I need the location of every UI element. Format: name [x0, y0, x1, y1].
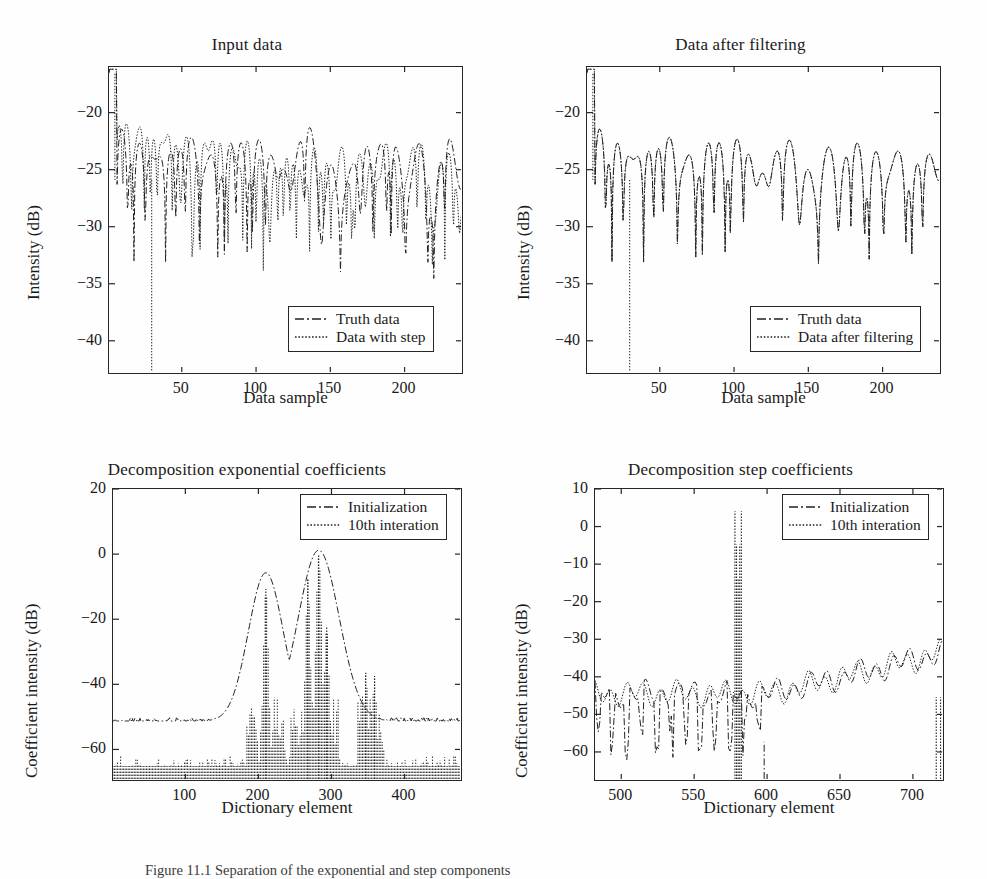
x-tick-label: 100	[243, 379, 267, 397]
x-tick-label: 150	[795, 379, 819, 397]
y-tick-label: −25	[56, 160, 102, 178]
legend-item: Data after filtering	[757, 328, 913, 346]
x-tick-label: 400	[392, 786, 416, 804]
y-tick-label: −20	[534, 103, 580, 121]
legend-label: Data with step	[336, 328, 426, 346]
y-axis-label: Intensity (dB)	[514, 205, 534, 300]
panel-title: Decomposition exponential coefficients	[0, 460, 494, 480]
x-tick-label: 650	[827, 786, 851, 804]
panel-title: Input data	[0, 35, 494, 55]
y-tick-label: 0	[60, 544, 106, 562]
y-axis-label: Coefficient intensity (dB)	[512, 604, 532, 778]
y-tick-label: −35	[56, 274, 102, 292]
y-tick-label: −10	[542, 554, 588, 572]
dotted-line-icon	[295, 331, 329, 343]
legend-label: Truth data	[336, 310, 400, 328]
x-tick-label: 550	[681, 786, 705, 804]
x-tick-label: 50	[173, 379, 189, 397]
legend: Truth data Data after filtering	[750, 306, 921, 352]
panel-title: Decomposition step coefficients	[494, 460, 987, 480]
x-tick-label: 150	[317, 379, 341, 397]
y-axis-label: Intensity (dB)	[24, 205, 44, 300]
dotted-line-icon	[757, 331, 791, 343]
y-tick-label: −20	[56, 103, 102, 121]
legend: Truth data Data with step	[288, 306, 434, 352]
panel-title: Data after filtering	[494, 35, 987, 55]
x-tick-label: 700	[900, 786, 924, 804]
x-tick-label: 100	[721, 379, 745, 397]
x-tick-label: 300	[318, 786, 342, 804]
figure-caption: Figure 11.1 Separation of the exponentia…	[145, 862, 845, 879]
legend-item: Initialization	[789, 498, 921, 516]
y-axis-label: Coefficient intensity (dB)	[22, 604, 42, 778]
legend-label: Data after filtering	[798, 328, 913, 346]
y-tick-label: 10	[542, 479, 588, 497]
y-tick-label: −30	[534, 217, 580, 235]
legend-item: Truth data	[295, 310, 426, 328]
legend: Initialization 10th interation	[300, 494, 447, 540]
legend-item: Truth data	[757, 310, 913, 328]
y-tick-label: −40	[56, 331, 102, 349]
y-tick-label: −40	[60, 674, 106, 692]
legend-label: Truth data	[798, 310, 862, 328]
x-tick-label: 200	[870, 379, 894, 397]
y-tick-label: −30	[56, 217, 102, 235]
y-tick-label: −30	[542, 629, 588, 647]
legend-item: Data with step	[295, 328, 426, 346]
legend-label: Initialization	[348, 498, 427, 516]
legend-label: 10th interation	[348, 516, 439, 534]
legend-label: 10th interation	[830, 516, 921, 534]
dash-dot-line-icon	[295, 313, 329, 325]
y-tick-label: −25	[534, 160, 580, 178]
x-tick-label: 500	[608, 786, 632, 804]
x-tick-label: 100	[172, 786, 196, 804]
legend-item: 10th interation	[789, 516, 921, 534]
y-tick-label: −40	[542, 667, 588, 685]
legend-label: Initialization	[830, 498, 909, 516]
y-tick-label: −50	[542, 704, 588, 722]
dash-dot-line-icon	[307, 501, 341, 513]
y-tick-label: 20	[60, 479, 106, 497]
y-tick-label: −35	[534, 274, 580, 292]
y-tick-label: −60	[60, 739, 106, 757]
y-tick-label: −40	[534, 331, 580, 349]
dotted-line-icon	[307, 519, 341, 531]
y-tick-label: −20	[542, 592, 588, 610]
subplot-decomposition-exponential: Decomposition exponential coefficients C…	[0, 440, 494, 840]
subplot-input-data: Input data Intensity (dB) Data sample −2…	[0, 0, 494, 440]
x-tick-label: 200	[245, 786, 269, 804]
y-tick-label: −60	[542, 742, 588, 760]
x-tick-label: 600	[754, 786, 778, 804]
subplot-decomposition-step: Decomposition step coefficients Coeffici…	[494, 440, 987, 840]
legend-item: Initialization	[307, 498, 439, 516]
y-tick-label: 0	[542, 517, 588, 535]
x-tick-label: 50	[651, 379, 667, 397]
subplot-data-after-filtering: Data after filtering Intensity (dB) Data…	[494, 0, 987, 440]
y-tick-label: −20	[60, 609, 106, 627]
dash-dot-line-icon	[789, 501, 823, 513]
dotted-line-icon	[789, 519, 823, 531]
legend: Initialization 10th interation	[782, 494, 929, 540]
dash-dot-line-icon	[757, 313, 791, 325]
legend-item: 10th interation	[307, 516, 439, 534]
x-tick-label: 200	[392, 379, 416, 397]
